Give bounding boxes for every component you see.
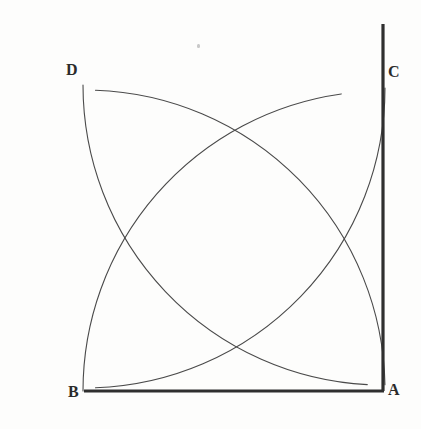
paper-speck bbox=[197, 44, 200, 48]
vertex-label-d: D bbox=[66, 62, 78, 78]
figure-canvas bbox=[0, 0, 421, 429]
vertex-label-a: A bbox=[388, 382, 400, 398]
vertex-label-c: C bbox=[388, 64, 400, 80]
figure-background bbox=[0, 0, 421, 429]
vertex-label-b: B bbox=[68, 384, 79, 400]
geometry-figure: A B C D bbox=[0, 0, 421, 429]
